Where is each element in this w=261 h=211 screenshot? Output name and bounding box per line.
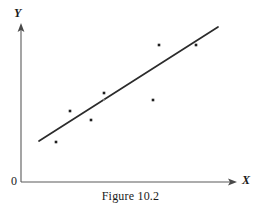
x-axis-label: X (242, 174, 250, 186)
figure-caption: Figure 10.2 (0, 189, 261, 204)
data-point (195, 44, 198, 47)
data-point (152, 99, 155, 102)
data-point (103, 92, 106, 95)
origin-label: 0 (11, 175, 17, 187)
figure-container: Y X 0 Figure 10.2 (0, 0, 261, 211)
scatter-plot-svg (0, 0, 261, 211)
data-point (69, 110, 72, 113)
y-axis-label: Y (14, 7, 21, 19)
data-point (158, 44, 161, 47)
data-point (90, 119, 93, 122)
data-point (55, 141, 58, 144)
data-point-group (55, 44, 198, 144)
data-point-faint (103, 99, 105, 101)
regression-line (39, 27, 218, 141)
